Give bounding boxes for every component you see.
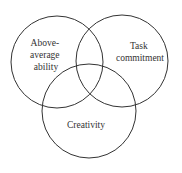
label-creativity: Creativity [67, 120, 105, 130]
venn-diagram: Above- average ability Task commitment C… [0, 0, 182, 173]
label-above-average-ability: Above- average ability [30, 38, 62, 72]
label-task-commitment: Task commitment [116, 41, 164, 63]
circle-creativity [42, 64, 136, 158]
